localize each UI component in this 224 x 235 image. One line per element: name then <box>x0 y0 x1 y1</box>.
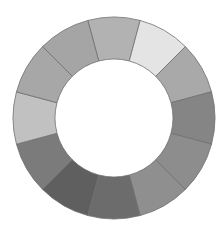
color-wheel-diagram <box>0 0 224 235</box>
wheel-segments <box>13 17 215 219</box>
